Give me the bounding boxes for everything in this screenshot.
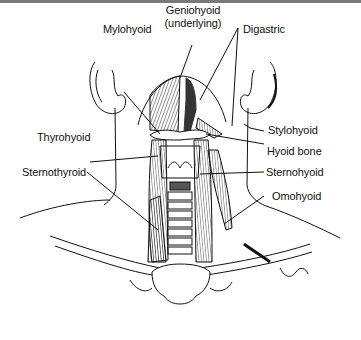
label-geniohyoid-underlying: (underlying)	[163, 17, 223, 29]
label-stylohyoid: Stylohyoid	[268, 124, 318, 136]
anatomy-figure: Geniohyoid (underlying) Mylohyoid Digast…	[0, 0, 361, 340]
label-hyoid-bone: Hyoid bone	[267, 145, 322, 157]
label-omohyoid: Omohyoid	[272, 190, 321, 202]
label-thyrohyoid: Thyrohyoid	[37, 131, 90, 143]
label-geniohyoid: Geniohyoid	[163, 4, 223, 16]
label-sternothyroid: Sternothyroid	[22, 166, 86, 178]
label-mylohyoid: Mylohyoid	[103, 23, 152, 35]
label-sternohyoid: Sternohyoid	[266, 166, 324, 178]
label-digastric: Digastric	[243, 23, 285, 35]
